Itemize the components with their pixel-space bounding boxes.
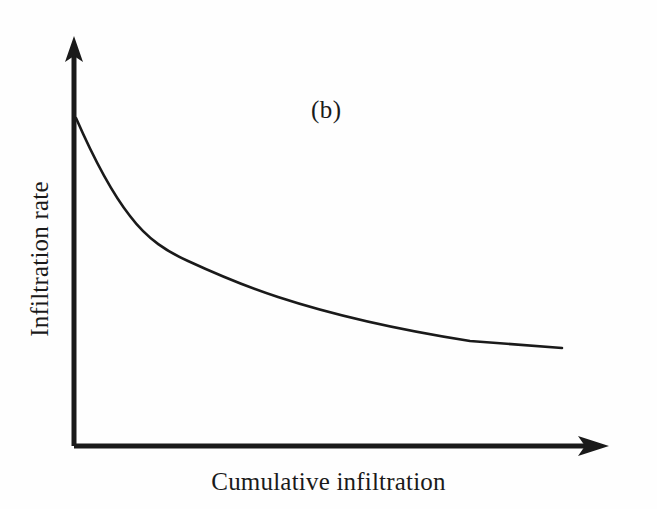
- infiltration-rate-curve: [76, 118, 562, 348]
- x-axis-title: Cumulative infiltration: [0, 468, 657, 496]
- y-axis-title: Infiltration rate: [26, 109, 54, 409]
- figure-container: (b) Cumulative infiltration Infiltration…: [0, 0, 657, 509]
- plot-area: [0, 0, 657, 509]
- panel-label: (b): [311, 96, 342, 124]
